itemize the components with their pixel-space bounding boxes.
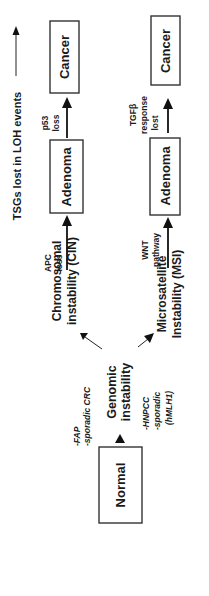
tgfb-line3: lost [150, 115, 160, 130]
genomic-line2: instability [119, 363, 133, 421]
hnpcc-line1: -HNPCC [141, 396, 151, 430]
node-normal: Normal [99, 447, 142, 523]
p53-line1: p53 [40, 115, 50, 130]
node-cin: Chromosomal instability (CIN) [50, 237, 79, 325]
hnpcc-line3: (hMLH1) [164, 391, 174, 425]
arrow-genomic-cin [80, 333, 102, 349]
legend-label: TSGs lost in LOH events [11, 92, 23, 220]
node-cancer-cin: Cancer [50, 21, 79, 93]
p53-line2: loss [51, 114, 61, 131]
annotation-hnpcc: -HNPCC -sporadic (hMLH1) [141, 391, 174, 430]
node-normal-label: Normal [113, 463, 128, 508]
apc-line1: APC [43, 254, 53, 272]
node-genomic-instability: Genomic instability [105, 363, 133, 421]
node-adenoma-msi: Adenoma [150, 138, 180, 215]
annotation-p53: p53 loss [40, 114, 61, 131]
annotation-tgfb: TGFβ response lost [128, 96, 160, 134]
annotation-apc: APC loss [43, 254, 64, 272]
arrow-normal-genomic [115, 434, 125, 443]
arrow-up-icon [13, 26, 20, 76]
wnt-line1: WNT [140, 240, 150, 260]
arrow-adenoma-cancer-msi [163, 98, 173, 133]
tgfb-line1: TGFβ [128, 104, 138, 126]
msi-line2: Instability (MSI) [170, 250, 184, 339]
legend: TSGs lost in LOH events [11, 26, 23, 220]
annotation-wnt: WNT pathway [140, 233, 161, 267]
adenoma-msi-label: Adenoma [158, 146, 173, 206]
annotation-fap: -FAP -sporadic CRC [72, 386, 92, 446]
genomic-line1: Genomic [105, 365, 119, 419]
adenoma-cin-label: Adenoma [59, 147, 74, 207]
arrow-genomic-msi [138, 333, 154, 347]
node-cancer-msi: Cancer [151, 16, 180, 85]
node-adenoma-cin: Adenoma [50, 140, 83, 213]
cin-line1: Chromosomal [50, 241, 64, 322]
cancer-msi-label: Cancer [158, 29, 173, 73]
fap-line1: -FAP [72, 426, 82, 446]
fap-line2: -sporadic CRC [82, 386, 92, 446]
apc-line2: loss [54, 254, 64, 271]
arrow-adenoma-cancer-cin [62, 97, 72, 138]
wnt-line2: pathway [151, 233, 161, 267]
tgfb-line2: response [139, 96, 149, 134]
pathway-diagram: TSGs lost in LOH events Normal Genomic i… [0, 0, 209, 596]
hnpcc-line2: -sporadic [152, 391, 162, 430]
cancer-cin-label: Cancer [57, 35, 72, 79]
